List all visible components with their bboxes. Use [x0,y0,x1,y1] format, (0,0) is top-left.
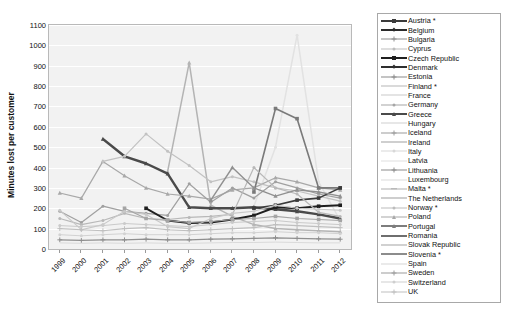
legend-item[interactable]: The Netherlands [381,194,498,203]
legend-item[interactable]: Estonia [381,72,498,81]
data-point-marker [80,234,83,237]
legend-marker-icon [392,168,397,173]
legend-item[interactable]: Portugal [381,222,498,231]
data-point-marker [252,220,255,223]
data-point-marker [252,210,255,213]
legend-item[interactable]: Cyprus [381,44,498,53]
data-point-marker [317,208,320,211]
data-point-marker [208,237,213,242]
legend-item[interactable]: Poland [381,212,498,221]
x-tick-mark [80,250,81,253]
legend-label: Ireland [407,138,430,147]
legend-item[interactable]: Iceland [381,128,498,137]
legend-key-diamond-icon [381,63,407,72]
legend-label: France [407,91,431,100]
legend-item[interactable]: Bulgaria [381,35,498,44]
legend-label: Latvia [407,156,427,165]
data-point-marker [230,226,235,231]
data-point-marker [58,224,61,227]
y-tick-label: 0 [42,245,46,254]
data-point-marker [317,204,321,208]
legend-line-swatch [381,235,407,237]
x-tick-mark [318,250,319,253]
legend-label: Bulgaria [407,35,435,44]
data-point-marker [80,225,83,228]
x-tick-label: 2010 [280,256,305,281]
legend-key-none-icon [381,240,407,249]
legend-item[interactable]: Malta * [381,184,498,193]
legend-marker-icon [393,150,396,153]
data-point-marker [295,217,299,221]
legend-item[interactable]: Ireland [381,137,498,146]
data-point-marker [274,186,277,189]
series-line-mid-b [58,166,341,226]
legend-item[interactable]: Spain [381,259,498,268]
legend-key-triangle-icon [381,222,407,231]
legend-item[interactable]: Czech Republic [381,53,498,62]
legend-item[interactable]: Finland * [381,81,498,90]
legend-key-none-icon [381,259,407,268]
data-point-marker [252,197,255,200]
data-point-marker [317,186,321,190]
data-point-marker [144,206,148,210]
legend-item[interactable]: Sweden [381,268,498,277]
legend-item[interactable]: Denmark [381,63,498,72]
legend-label: Slovak Republic [407,240,460,249]
data-point-marker [338,186,342,190]
legend-item[interactable]: Romania [381,231,498,240]
legend-key-none-icon [381,231,407,240]
legend-item[interactable]: Lithuania [381,166,498,175]
legend-item[interactable]: Greece [381,109,498,118]
legend-label: Finland * [407,82,437,91]
legend-line-swatch [381,142,407,143]
y-tick-label: 1100 [30,21,46,30]
data-point-marker [252,166,255,169]
data-point-marker [101,160,104,163]
x-tick-label: 2009 [258,256,283,281]
legend-item[interactable]: France [381,91,498,100]
data-point-marker [230,165,234,169]
legend-item[interactable]: Slovenia * [381,250,498,259]
legend-item[interactable]: Slovak Republic [381,240,498,249]
legend-label: Lithuania [407,166,438,175]
data-point-marker [101,228,106,233]
x-tick-label: 2011 [301,256,326,281]
legend-label: Greece [407,110,432,119]
series-line-low-c [57,235,342,242]
legend-item[interactable]: Italy [381,147,498,156]
legend-marker-icon [392,215,396,219]
data-point-marker [274,107,278,111]
data-point-marker [79,238,84,243]
legend-item[interactable]: Belgium [381,25,498,34]
plot-area [48,24,352,250]
legend-item[interactable]: UK [381,287,498,296]
data-point-marker [101,233,104,236]
data-point-marker [123,155,126,158]
legend-item[interactable]: Austria * [381,16,498,25]
legend-label: The Netherlands [407,194,462,203]
legend-item[interactable]: Latvia [381,156,498,165]
chart-screenshot: Minutes lost per customer 01002003004005… [0,0,505,316]
legend-label: Austria * [407,16,436,25]
x-tick-label: 2005 [172,256,197,281]
legend-item[interactable]: Luxembourg [381,175,498,184]
legend-key-dot-icon [381,278,407,287]
legend-key-plus-icon [381,35,407,44]
x-tick-label: 2003 [129,256,154,281]
legend-item[interactable]: Switzerland [381,278,498,287]
legend-marker-icon [393,281,396,284]
x-tick-mark [102,250,103,253]
legend-marker-icon [392,65,397,70]
x-tick-mark [188,250,189,253]
legend-marker-icon [391,188,397,190]
y-axis-tick-labels: 010020030040050060070080090010001100 [18,24,48,250]
legend-item[interactable]: Hungary [381,119,498,128]
y-tick-label: 600 [33,122,46,131]
x-tick-mark [59,250,60,253]
legend-marker-icon [392,224,396,228]
legend-item[interactable]: Germany [381,100,498,109]
series-line [60,242,340,243]
legend-item[interactable]: Norway * [381,203,498,212]
legend-label: Germany [407,100,438,109]
legend-label: Estonia [407,72,432,81]
